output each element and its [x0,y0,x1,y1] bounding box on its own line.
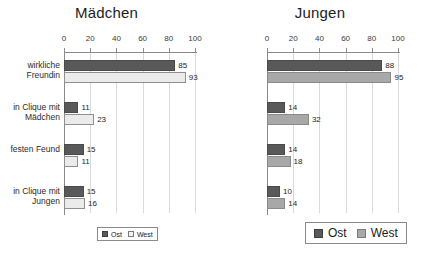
bar-value-label: 15 [87,186,96,197]
bar-value-label: 32 [312,114,321,125]
bar-value-label: 15 [87,144,96,155]
bar-west [64,156,78,167]
legend-label-ost: Ost [328,226,347,240]
category-label: in Clique mit Mädchen [2,102,60,122]
legend-swatch-west-icon [128,231,134,237]
x-axis-tick-label: 80 [164,34,173,43]
bar-value-label: 93 [189,72,198,83]
bar-value-label: 85 [178,60,187,71]
x-axis-tick-label: 100 [188,34,201,43]
category-group: festen Feund1511 [0,144,213,186]
x-axis-tick-label: 0 [265,34,269,43]
legend-item-west: West [128,231,153,238]
plot-area-jungen: 020406080100wirklicher Freund8895in Cliq… [213,34,427,219]
bar-value-label: 23 [97,114,106,125]
category-label: wirkliche Freundin [2,60,60,80]
bar-west [64,198,85,209]
chart-panel-jungen: Jungen 020406080100wirklicher Freund8895… [213,0,427,259]
legend-label-west: West [371,226,398,240]
chart-title-jungen: Jungen [213,4,427,21]
bar-west [267,114,309,125]
legend-item-west: West [357,226,398,240]
x-axis-line [64,52,197,53]
bar-value-label: 14 [288,198,297,209]
plot-area-maedchen: 020406080100wirkliche Freundin8593in Cli… [0,34,213,219]
legend-label-west: West [137,231,153,238]
legend-maedchen: Ost West [97,227,158,241]
bar-value-label: 88 [385,60,394,71]
bar-value-label: 16 [88,198,97,209]
bar-ost [267,102,285,113]
chart-pair-container: Mädchen 020406080100wirkliche Freundin85… [0,0,427,259]
x-axis-tick-label: 0 [62,34,66,43]
legend-item-ost: Ost [314,226,347,240]
bar-west [267,156,291,167]
category-group: in Clique mit Jungen1432 [213,102,427,144]
legend-jungen: Ost West [305,222,407,244]
bar-ost [64,186,84,197]
x-axis-tick-labels: 020406080100 [213,34,427,48]
chart-title-maedchen: Mädchen [0,4,213,21]
bar-ost [64,102,78,113]
bar-value-label: 18 [294,156,303,167]
bar-value-label: 11 [81,156,89,167]
bar-west [64,72,186,83]
category-label: festen Feund [2,144,60,154]
bar-value-label: 14 [288,144,297,155]
bar-value-label: 11 [81,102,89,113]
category-group: wirklicher Freund8895 [213,60,427,102]
x-axis-tick-label: 40 [315,34,324,43]
x-axis-tick-labels: 020406080100 [0,34,213,48]
bar-value-label: 14 [288,102,297,113]
category-group: feste Feundin1418 [213,144,427,186]
bar-value-label: 10 [283,186,292,197]
legend-swatch-west-icon [357,229,366,238]
category-group: in Clique mit Mädchen1123 [0,102,213,144]
x-axis-tick-label: 60 [138,34,147,43]
x-axis-tick-label: 20 [86,34,95,43]
legend-swatch-ost-icon [314,229,323,238]
bar-west [267,198,285,209]
bar-ost [64,144,84,155]
bar-ost [64,60,175,71]
bar-ost [267,60,382,71]
bar-west [64,114,94,125]
legend-item-ost: Ost [102,231,122,238]
category-label: in Clique mit Jungen [2,186,60,206]
legend-label-ost: Ost [111,231,122,238]
chart-panel-maedchen: Mädchen 020406080100wirkliche Freundin85… [0,0,213,259]
x-axis-tick-label: 40 [112,34,121,43]
category-group: in Clique mit Jungen1516 [0,186,213,228]
x-axis-tick-label: 20 [289,34,298,43]
x-axis-line [267,52,400,53]
bar-ost [267,186,280,197]
x-axis-tick-label: 100 [391,34,404,43]
category-group: wirkliche Freundin8593 [0,60,213,102]
bar-ost [267,144,285,155]
x-axis-tick-label: 60 [341,34,350,43]
bar-value-label: 95 [394,72,403,83]
legend-swatch-ost-icon [102,231,108,237]
bar-west [267,72,391,83]
x-axis-tick-label: 80 [367,34,376,43]
